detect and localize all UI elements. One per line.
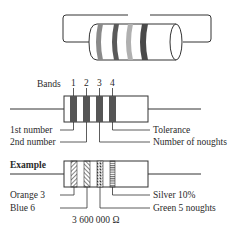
label-2nd-number: 2nd number: [10, 137, 56, 147]
label-1st-number: 1st number: [10, 125, 52, 135]
bands-heading: Bands: [37, 79, 61, 89]
label-number-of-noughts: Number of noughts: [153, 137, 227, 147]
example-result-value: 3 600 000 Ω: [72, 215, 119, 225]
label-green-5-noughts: Green 5 noughts: [153, 203, 216, 213]
example-heading: Example: [10, 160, 46, 170]
label-orange-3: Orange 3: [10, 190, 45, 200]
band-number-4: 4: [110, 78, 115, 88]
label-tolerance: Tolerance: [153, 125, 190, 135]
band-number-3: 3: [97, 78, 102, 88]
top-resistor: [89, 24, 182, 60]
label-silver-10: Silver 10%: [153, 190, 195, 200]
band-number-1: 1: [71, 78, 76, 88]
label-blue-6: Blue 6: [10, 203, 35, 213]
band-number-2: 2: [84, 78, 89, 88]
